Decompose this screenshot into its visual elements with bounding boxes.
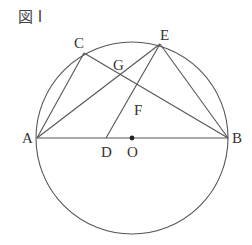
label-d: D (101, 144, 112, 160)
segment-ae (37, 44, 160, 138)
segment-cb (84, 53, 228, 138)
label-c: C (74, 35, 84, 51)
label-b: B (232, 130, 242, 146)
label-a: A (22, 130, 33, 146)
label-e: E (160, 27, 169, 43)
segment-ac (37, 53, 84, 138)
label-o: O (127, 144, 138, 160)
label-g: G (113, 57, 124, 73)
geometry-diagram: 図 I A B C E G F D O (0, 0, 252, 245)
center-point-o (130, 136, 135, 141)
label-f: F (134, 102, 142, 118)
segment-eb (160, 44, 228, 138)
figure-title: 図 I (18, 8, 42, 26)
